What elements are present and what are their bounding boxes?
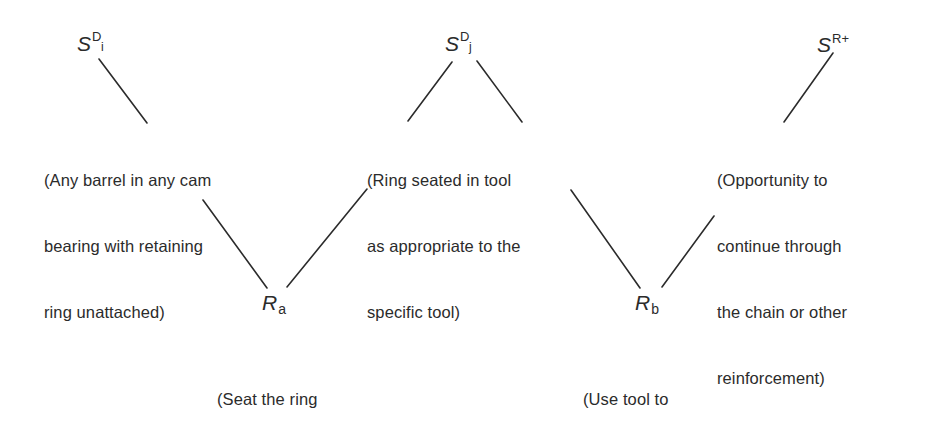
node-base: R bbox=[262, 291, 277, 314]
node-base: R bbox=[635, 291, 650, 314]
note-sd-j: (Ring seated in tool as appropriate to t… bbox=[367, 125, 520, 345]
node-scripts: Dj bbox=[459, 33, 471, 51]
node-r-b: Rb bbox=[635, 292, 659, 316]
node-sd-j: SDj bbox=[445, 33, 471, 54]
note-sr-plus: (Opportunity to continue through the cha… bbox=[717, 125, 847, 411]
node-scripts: Di bbox=[91, 33, 103, 51]
node-sup: R+ bbox=[832, 31, 849, 46]
note-line: bearing with retaining bbox=[44, 235, 211, 257]
note-line: (Ring seated in tool bbox=[367, 169, 520, 191]
node-sub: i bbox=[101, 41, 104, 53]
edge-srplus-to-note bbox=[784, 53, 833, 122]
note-line: specific tool) bbox=[367, 301, 520, 323]
node-base: S bbox=[77, 32, 91, 55]
note-line: ring unattached) bbox=[44, 301, 211, 323]
edge-sdj-left bbox=[408, 62, 452, 121]
note-line: reinforcement) bbox=[717, 367, 847, 389]
note-sd-i: (Any barrel in any cam bearing with reta… bbox=[44, 125, 211, 345]
note-line: (Any barrel in any cam bbox=[44, 169, 211, 191]
node-sub: j bbox=[469, 41, 472, 53]
edge-sdj-note-to-rb bbox=[571, 190, 640, 288]
node-sub: b bbox=[651, 301, 659, 317]
node-base: S bbox=[817, 33, 831, 56]
edge-ra-to-sdj-note bbox=[287, 189, 367, 287]
node-sd-i: SDi bbox=[77, 33, 103, 54]
note-line: the chain or other bbox=[717, 301, 847, 323]
node-sup: D bbox=[92, 30, 101, 43]
node-r-a: Ra bbox=[262, 292, 286, 316]
note-line: (Opportunity to bbox=[717, 169, 847, 191]
node-sr-plus: SR+ bbox=[817, 32, 849, 55]
note-line: continue through bbox=[717, 235, 847, 257]
edge-rb-to-srplus-note bbox=[662, 216, 714, 287]
edge-note-to-ra bbox=[203, 200, 267, 288]
note-r-b: (Use tool to place ring in barrel groove… bbox=[583, 344, 687, 443]
node-base: S bbox=[445, 32, 459, 55]
note-line: (Use tool to bbox=[583, 388, 687, 410]
note-line: as appropriate to the bbox=[367, 235, 520, 257]
note-r-a: (Seat the ring in appropriate tool) bbox=[217, 344, 319, 443]
node-sub: a bbox=[278, 301, 286, 317]
node-sup: D bbox=[460, 30, 469, 43]
edge-sdj-right bbox=[477, 61, 522, 122]
note-line: (Seat the ring bbox=[217, 388, 319, 410]
edge-sdi-to-note bbox=[99, 59, 147, 123]
